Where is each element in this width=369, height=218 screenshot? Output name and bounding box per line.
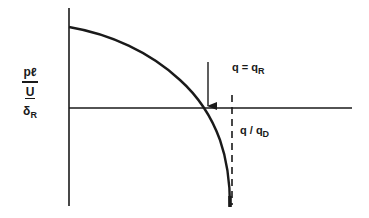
response-curve (69, 27, 230, 206)
qr-label: q = qR (232, 62, 264, 73)
y-label-denominator-sub: R (30, 110, 37, 120)
qr-label-main: q = q (232, 61, 258, 73)
qd-label-sub: D (263, 129, 270, 139)
diagram-svg (0, 0, 369, 218)
qr-label-sub: R (258, 66, 265, 76)
qd-label-main: q / q (240, 124, 263, 136)
qd-label: q / qD (240, 125, 269, 136)
y-label-numerator: pℓ (17, 66, 43, 78)
y-label-middle: U (25, 86, 36, 99)
y-axis-label: pℓ U δR (17, 66, 43, 117)
diagram-canvas: pℓ U δR q = qR q / qD (0, 0, 369, 218)
y-label-fraction-bar (22, 81, 38, 83)
